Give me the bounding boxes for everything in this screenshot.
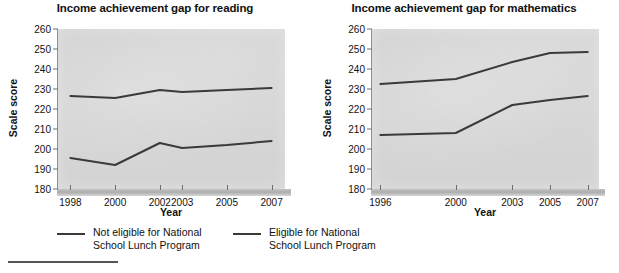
- plot-baseline-shadow-reading: [57, 189, 291, 196]
- y-tick-label: 180: [348, 184, 365, 195]
- y-tick-label: 230: [348, 84, 365, 95]
- x-axis-title-mathematics: Year: [371, 206, 599, 218]
- plot-baseline-shadow-mathematics: [371, 189, 605, 196]
- plot-wrapper-reading: 180190200210220230240250260 199820002002…: [57, 29, 285, 189]
- series-line-not-eligible: [380, 52, 587, 84]
- y-tick-label: 250: [348, 44, 365, 55]
- chart-title-mathematics: Income achievement gap for mathematics: [309, 2, 619, 14]
- legend-label-eligible: Eligible for National School Lunch Progr…: [269, 226, 376, 251]
- chart-panel-reading: Income achievement gap for reading 18019…: [0, 0, 310, 220]
- y-tick-label: 190: [348, 164, 365, 175]
- y-tick-label: 210: [34, 124, 51, 135]
- legend-label-not-eligible-line1: Not eligible for National: [93, 226, 202, 239]
- y-tick-label: 190: [34, 164, 51, 175]
- series-lines-reading: [57, 29, 285, 189]
- legend-item-not-eligible: Not eligible for National School Lunch P…: [57, 226, 202, 251]
- series-line-eligible: [70, 141, 271, 165]
- y-tick-label: 240: [348, 64, 365, 75]
- series-line-eligible: [380, 96, 587, 135]
- y-tick-label: 220: [348, 104, 365, 115]
- y-tick-label: 180: [34, 184, 51, 195]
- legend-line-swatch-eligible: [233, 233, 261, 235]
- y-tick-label: 220: [34, 104, 51, 115]
- y-tick-label: 260: [34, 24, 51, 35]
- y-tick-label: 250: [34, 44, 51, 55]
- chart-panel-mathematics: Income achievement gap for mathematics 1…: [309, 0, 619, 220]
- x-axis-title-reading: Year: [57, 206, 285, 218]
- y-tick-label: 200: [348, 144, 365, 155]
- legend-label-eligible-line1: Eligible for National: [269, 226, 376, 239]
- legend-label-not-eligible: Not eligible for National School Lunch P…: [93, 226, 202, 251]
- series-lines-mathematics: [371, 29, 599, 189]
- figure-legend: Not eligible for National School Lunch P…: [0, 226, 619, 260]
- legend-line-swatch-not-eligible: [57, 233, 85, 235]
- legend-item-eligible: Eligible for National School Lunch Progr…: [233, 226, 376, 251]
- y-axis-title-mathematics: Scale score: [321, 78, 333, 138]
- chart-title-reading: Income achievement gap for reading: [0, 2, 310, 14]
- y-axis-title-reading: Scale score: [7, 78, 19, 138]
- y-tick-label: 230: [34, 84, 51, 95]
- plot-wrapper-mathematics: 180190200210220230240250260 199620002003…: [371, 29, 599, 189]
- figure-container: Income achievement gap for reading 18019…: [0, 0, 619, 273]
- y-tick-label: 240: [34, 64, 51, 75]
- footnote-separator-rule: [8, 261, 118, 263]
- y-tick-label: 200: [34, 144, 51, 155]
- y-tick-label: 260: [348, 24, 365, 35]
- legend-label-not-eligible-line2: School Lunch Program: [93, 239, 202, 252]
- y-tick-label: 210: [348, 124, 365, 135]
- legend-label-eligible-line2: School Lunch Program: [269, 239, 376, 252]
- series-line-not-eligible: [70, 88, 271, 98]
